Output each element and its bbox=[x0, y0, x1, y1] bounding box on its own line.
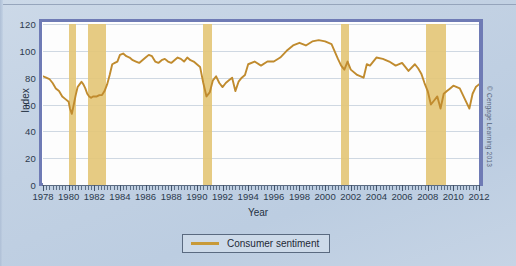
x-minor-tick bbox=[316, 185, 317, 190]
x-tick-label: 1988 bbox=[161, 191, 182, 202]
x-minor-tick bbox=[367, 185, 368, 190]
x-minor-tick bbox=[396, 185, 397, 190]
x-minor-tick bbox=[319, 185, 320, 190]
x-tick-label: 1982 bbox=[84, 191, 105, 202]
x-minor-tick bbox=[415, 185, 416, 190]
x-tick-label: 2002 bbox=[340, 191, 361, 202]
chart-legend[interactable]: Consumer sentiment bbox=[182, 234, 330, 253]
x-minor-tick bbox=[162, 185, 163, 190]
x-minor-tick bbox=[98, 185, 99, 190]
x-minor-tick bbox=[412, 185, 413, 190]
x-minor-tick bbox=[81, 185, 82, 190]
legend-line-swatch bbox=[191, 242, 219, 245]
x-tick-label: 2004 bbox=[366, 191, 387, 202]
x-minor-tick bbox=[203, 185, 204, 190]
x-minor-tick bbox=[235, 185, 236, 190]
legend-label: Consumer sentiment bbox=[227, 238, 319, 249]
left-edge-shade bbox=[0, 0, 3, 266]
x-minor-tick bbox=[408, 185, 409, 190]
x-minor-tick bbox=[213, 185, 214, 190]
x-minor-tick bbox=[405, 185, 406, 190]
x-minor-tick bbox=[184, 185, 185, 190]
x-minor-tick bbox=[126, 185, 127, 190]
x-tick-label: 1978 bbox=[32, 191, 53, 202]
x-minor-tick bbox=[53, 185, 54, 190]
x-tick-label: 1986 bbox=[135, 191, 156, 202]
x-tick-label: 2006 bbox=[391, 191, 412, 202]
x-minor-tick bbox=[434, 185, 435, 190]
x-minor-tick bbox=[431, 185, 432, 190]
x-minor-tick bbox=[344, 185, 345, 190]
x-minor-tick bbox=[354, 185, 355, 190]
x-minor-tick bbox=[174, 185, 175, 190]
x-minor-tick bbox=[117, 185, 118, 190]
x-minor-tick bbox=[425, 185, 426, 190]
x-minor-tick bbox=[149, 185, 150, 190]
x-minor-tick bbox=[65, 185, 66, 190]
x-minor-tick bbox=[49, 185, 50, 190]
x-minor-tick bbox=[142, 185, 143, 190]
x-minor-tick bbox=[190, 185, 191, 190]
x-minor-tick bbox=[463, 185, 464, 190]
x-tick-label: 2008 bbox=[417, 191, 438, 202]
x-minor-tick bbox=[258, 185, 259, 190]
x-minor-tick bbox=[133, 185, 134, 190]
x-tick-label: 2000 bbox=[315, 191, 336, 202]
x-minor-tick bbox=[283, 185, 284, 190]
chart-figure: 020406080100120 Index 197819801982198419… bbox=[0, 0, 516, 266]
x-minor-tick bbox=[271, 185, 272, 190]
x-minor-tick bbox=[386, 185, 387, 190]
x-minor-tick bbox=[460, 185, 461, 190]
x-minor-tick bbox=[232, 185, 233, 190]
x-minor-tick bbox=[437, 185, 438, 190]
consumer-sentiment-line bbox=[43, 24, 479, 185]
x-minor-tick bbox=[287, 185, 288, 190]
x-minor-tick bbox=[364, 185, 365, 190]
x-minor-tick bbox=[101, 185, 102, 190]
x-minor-tick bbox=[85, 185, 86, 190]
x-minor-tick bbox=[136, 185, 137, 190]
x-tick-label: 2012 bbox=[468, 191, 489, 202]
x-minor-tick bbox=[373, 185, 374, 190]
x-minor-tick bbox=[78, 185, 79, 190]
x-minor-tick bbox=[421, 185, 422, 190]
x-minor-tick bbox=[392, 185, 393, 190]
x-minor-tick bbox=[239, 185, 240, 190]
x-minor-tick bbox=[226, 185, 227, 190]
y-axis-title: Index bbox=[20, 71, 31, 131]
x-minor-tick bbox=[267, 185, 268, 190]
x-minor-tick bbox=[296, 185, 297, 190]
x-minor-tick bbox=[447, 185, 448, 190]
x-minor-tick bbox=[264, 185, 265, 190]
x-minor-tick bbox=[469, 185, 470, 190]
x-minor-tick bbox=[139, 185, 140, 190]
x-minor-tick bbox=[181, 185, 182, 190]
x-minor-tick bbox=[110, 185, 111, 190]
x-minor-tick bbox=[370, 185, 371, 190]
x-minor-tick bbox=[178, 185, 179, 190]
x-minor-tick bbox=[332, 185, 333, 190]
x-minor-tick bbox=[152, 185, 153, 190]
x-minor-tick bbox=[210, 185, 211, 190]
x-minor-tick bbox=[309, 185, 310, 190]
x-minor-tick bbox=[338, 185, 339, 190]
x-minor-tick bbox=[245, 185, 246, 190]
x-minor-tick bbox=[155, 185, 156, 190]
x-minor-tick bbox=[216, 185, 217, 190]
x-minor-tick bbox=[380, 185, 381, 190]
x-minor-tick bbox=[200, 185, 201, 190]
x-axis-tick-labels: 1978198019821984198619881990199219941996… bbox=[43, 191, 479, 205]
x-minor-tick bbox=[418, 185, 419, 190]
x-minor-tick bbox=[341, 185, 342, 190]
x-axis-title: Year bbox=[0, 207, 516, 218]
y-tick-label: 100 bbox=[20, 45, 36, 56]
x-minor-tick bbox=[255, 185, 256, 190]
x-minor-tick bbox=[328, 185, 329, 190]
x-minor-tick bbox=[441, 185, 442, 190]
x-minor-tick bbox=[75, 185, 76, 190]
x-minor-tick bbox=[261, 185, 262, 190]
x-minor-tick bbox=[251, 185, 252, 190]
x-minor-tick bbox=[312, 185, 313, 190]
x-minor-tick bbox=[165, 185, 166, 190]
x-minor-tick bbox=[168, 185, 169, 190]
